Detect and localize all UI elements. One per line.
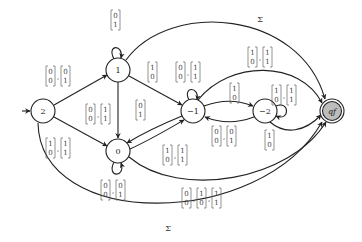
edge-label-2-to-0: 10,11	[46, 138, 70, 158]
svg-text:1: 1	[193, 73, 197, 81]
svg-text:,: ,	[283, 92, 285, 100]
state-qf-final: qf	[320, 99, 344, 123]
svg-text:1: 1	[289, 96, 293, 104]
edge-neg1-to-0	[127, 116, 182, 143]
svg-text:1: 1	[250, 49, 254, 57]
edge-label-1-to-0: 00,11	[86, 104, 110, 124]
svg-text:0: 0	[48, 149, 52, 157]
edge-neg1-to-qf	[198, 70, 322, 103]
svg-text:0: 0	[178, 73, 182, 81]
svg-text:0: 0	[214, 128, 218, 136]
edge-label--1-to--1: 00,11	[176, 62, 200, 82]
svg-text:0: 0	[103, 191, 107, 199]
svg-text:,: ,	[57, 73, 59, 81]
svg-text:,: ,	[193, 195, 195, 203]
svg-text:1: 1	[165, 147, 169, 155]
svg-text:,: ,	[259, 54, 261, 62]
state-0: 0	[106, 139, 130, 163]
svg-text:0: 0	[88, 106, 92, 114]
svg-text:,: ,	[208, 195, 210, 203]
svg-text:1: 1	[103, 115, 107, 123]
edge-label-1-to-1: 01	[111, 10, 120, 30]
edge-label-0-to-qf: 00,10,11	[182, 188, 221, 208]
svg-text:0: 0	[229, 128, 233, 136]
svg-text:0: 0	[118, 182, 122, 190]
edge-label-1-to--1: 10	[148, 62, 157, 82]
svg-text:,: ,	[57, 145, 59, 153]
svg-text:1: 1	[180, 147, 184, 155]
edge-1-self-loop	[112, 48, 121, 59]
svg-text:1: 1	[289, 87, 293, 95]
svg-text:1: 1	[150, 64, 154, 72]
edge-label--1-to-qf: 10,11	[248, 47, 272, 67]
svg-text:0: 0	[165, 156, 169, 164]
svg-text:1: 1	[274, 87, 278, 95]
svg-text:,: ,	[174, 152, 176, 160]
edge-0-to-qf	[129, 122, 326, 180]
edge-label-0-to--1: 10,11	[163, 145, 187, 165]
edge-1-to-qf-sigma-top	[126, 22, 325, 99]
svg-text:1: 1	[118, 191, 122, 199]
svg-text:1: 1	[193, 64, 197, 72]
edge-label-2-to-1: 00,01	[46, 66, 70, 86]
edge-neg1-self-loop	[187, 90, 197, 101]
sigma-label-bottom: Σ	[165, 224, 171, 233]
svg-text:,: ,	[112, 187, 114, 195]
edge-neg2-self-loop	[276, 105, 287, 117]
svg-text:−2: −2	[259, 107, 271, 116]
svg-text:0: 0	[214, 137, 218, 145]
svg-text:0: 0	[113, 12, 117, 20]
svg-text:1: 1	[214, 190, 218, 198]
svg-text:1: 1	[63, 140, 67, 148]
svg-text:1: 1	[103, 106, 107, 114]
edge-neg2-to-qf	[270, 115, 321, 130]
svg-text:0: 0	[103, 182, 107, 190]
edge-label--1-to--2: 10	[230, 83, 239, 103]
svg-text:2: 2	[40, 107, 45, 116]
edge-label--2-to--1: 00,01	[212, 126, 236, 146]
edge-0-to-neg1	[130, 120, 184, 149]
state-neg1: −1	[181, 99, 205, 123]
svg-text:0: 0	[250, 58, 254, 66]
edge-0-self-loop	[112, 162, 122, 174]
svg-text:,: ,	[223, 133, 225, 141]
svg-text:0: 0	[184, 199, 188, 207]
edge-2-to-0	[54, 117, 107, 146]
svg-text:1: 1	[48, 140, 52, 148]
svg-text:1: 1	[232, 85, 236, 93]
edge-label--2-to--2: 10,11	[272, 85, 296, 105]
svg-text:0: 0	[274, 96, 278, 104]
svg-text:1: 1	[229, 137, 233, 145]
svg-text:0: 0	[88, 115, 92, 123]
svg-text:1: 1	[115, 66, 120, 75]
svg-text:0: 0	[184, 190, 188, 198]
svg-text:1: 1	[214, 199, 218, 207]
svg-text:0: 0	[199, 199, 203, 207]
state-2: 2	[31, 99, 55, 123]
edge-label--1-to-0: 01	[136, 100, 145, 120]
svg-text:1: 1	[267, 132, 271, 140]
svg-text:1: 1	[265, 58, 269, 66]
svg-text:0: 0	[48, 68, 52, 76]
svg-text:,: ,	[97, 111, 99, 119]
svg-text:0: 0	[232, 94, 236, 102]
edge-2-to-1	[54, 75, 107, 105]
svg-text:0: 0	[48, 77, 52, 85]
svg-text:0: 0	[63, 68, 67, 76]
svg-text:,: ,	[187, 69, 189, 77]
svg-text:1: 1	[63, 149, 67, 157]
automaton-diagram: 2 1 0 −1 −2 qf Σ Σ 00,0110,110100,111001…	[0, 0, 362, 242]
svg-text:1: 1	[199, 190, 203, 198]
svg-text:1: 1	[63, 77, 67, 85]
svg-text:1: 1	[180, 156, 184, 164]
state-1: 1	[106, 58, 130, 82]
svg-text:0: 0	[178, 64, 182, 72]
edge-label-0-to-0: 00,01	[101, 180, 125, 200]
edge-neg2-to-neg1	[205, 117, 254, 122]
edge-1-to-neg1	[129, 76, 182, 105]
svg-text:−1: −1	[187, 107, 199, 116]
svg-text:1: 1	[265, 49, 269, 57]
svg-text:0: 0	[115, 147, 120, 156]
sigma-label-top: Σ	[257, 15, 263, 24]
svg-text:1: 1	[113, 21, 117, 29]
